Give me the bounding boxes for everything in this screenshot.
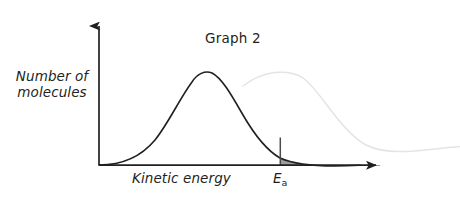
activation-energy-symbol: E <box>273 170 282 186</box>
graph-figure: Number ofmolecules Graph 2 Kinetic energ… <box>0 0 460 203</box>
y-axis-label-line1: Number of <box>16 68 88 84</box>
y-axis-label: Number ofmolecules <box>8 68 96 101</box>
activation-energy-label: Ea <box>273 170 287 188</box>
ghost-distribution-curve <box>243 72 460 151</box>
shaded-area-group <box>280 60 390 166</box>
distribution-curve <box>99 72 360 166</box>
shaded-area-right-of-ea <box>280 60 390 166</box>
graph-title: Graph 2 <box>205 30 261 46</box>
activation-energy-subscript: a <box>282 177 288 188</box>
x-axis-label: Kinetic energy <box>132 170 231 186</box>
y-axis-label-line2: molecules <box>17 84 86 100</box>
